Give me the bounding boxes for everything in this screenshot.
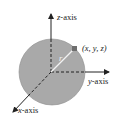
diagram-svg: z-axis y-axis x-axis (x, y, z) r <box>0 0 126 119</box>
y-axis-label: y-axis <box>87 76 108 86</box>
x-axis-label: x-axis <box>17 105 38 115</box>
sphere-diagram: z-axis y-axis x-axis (x, y, z) r <box>0 0 126 119</box>
point-marker <box>72 46 77 51</box>
z-axis-label: z-axis <box>56 12 77 22</box>
point-label: (x, y, z) <box>82 43 107 53</box>
